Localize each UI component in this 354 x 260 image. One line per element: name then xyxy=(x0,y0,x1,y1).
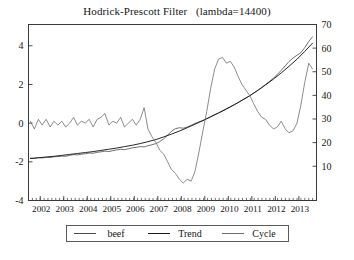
x-axis-tick-labels: 2002200320042005200620072008200920102011… xyxy=(32,204,309,214)
y-axis-right-tick-label: 70 xyxy=(322,19,332,30)
y-axis-left-tick-label: 0 xyxy=(19,118,24,129)
x-axis-tick-label: 2009 xyxy=(197,204,216,214)
y-axis-right-tick-label: 20 xyxy=(322,137,332,148)
x-axis-tick-label: 2003 xyxy=(56,204,75,214)
y-axis-right-tick-label: 10 xyxy=(322,161,332,172)
y-axis-right-tick-label: 60 xyxy=(322,43,332,54)
y-axis-right-tick-label: 30 xyxy=(322,113,332,124)
legend-label-cycle: Cycle xyxy=(252,228,276,239)
x-axis-tick-label: 2005 xyxy=(103,204,122,214)
x-axis-tick-label: 2007 xyxy=(150,204,169,214)
y-axis-right-tick-labels: 10203040506070 xyxy=(322,19,332,172)
y-axis-left-tick-label: 4 xyxy=(19,40,24,51)
figure-caption xyxy=(0,252,354,260)
x-axis-ticks xyxy=(29,196,317,201)
y-axis-left-tick-labels: -4-2024 xyxy=(15,40,23,206)
data-series-group xyxy=(30,37,312,183)
y-axis-right-tick-label: 50 xyxy=(322,66,332,77)
y-axis-left-tick-label: 2 xyxy=(19,79,24,90)
x-axis-tick-label: 2012 xyxy=(267,204,286,214)
y-axis-left-tick-label: -2 xyxy=(15,156,23,167)
series-line-beef xyxy=(30,37,312,159)
x-axis-tick-label: 2010 xyxy=(220,204,239,214)
x-axis-tick-label: 2008 xyxy=(173,204,192,214)
plot-frame-group xyxy=(29,25,317,201)
y-axis-left-tick-label: -4 xyxy=(15,195,23,206)
chart-legend: beefTrendCycle xyxy=(67,226,289,242)
x-axis-tick-label: 2004 xyxy=(79,204,98,214)
plot-frame xyxy=(29,25,317,201)
series-line-trend xyxy=(30,43,312,158)
legend-label-beef: beef xyxy=(107,228,125,239)
y-axis-right-tick-label: 40 xyxy=(322,90,332,101)
x-axis-tick-label: 2002 xyxy=(32,204,51,214)
x-axis-tick-label: 2011 xyxy=(244,204,262,214)
y-axis-left-ticks xyxy=(29,46,33,201)
series-line-cycle xyxy=(30,57,312,183)
chart-container: Hodrick-Prescott Filter (lambda=14400) 2… xyxy=(0,0,354,260)
x-axis-tick-label: 2013 xyxy=(291,204,310,214)
chart-plot-svg: 2002200320042005200620072008200920102011… xyxy=(0,0,354,260)
legend-label-trend: Trend xyxy=(178,228,202,239)
x-axis-tick-label: 2006 xyxy=(126,204,145,214)
y-axis-right-ticks xyxy=(313,25,317,167)
